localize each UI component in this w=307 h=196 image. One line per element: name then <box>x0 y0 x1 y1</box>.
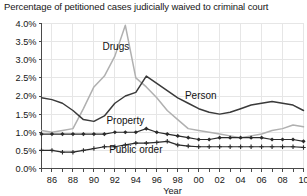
series-marker-plus <box>39 148 43 152</box>
x-axis-tick-label: 06 <box>256 175 266 185</box>
series-marker-plus <box>176 143 180 147</box>
series-marker-plus <box>259 145 263 149</box>
series-line-drugs <box>42 25 304 137</box>
y-axis-tick-label: 0.5% <box>16 146 37 156</box>
series-marker-diamond <box>144 127 148 131</box>
series-marker-diamond <box>218 136 222 140</box>
series-marker-diamond <box>176 134 180 138</box>
series-marker-plus <box>291 145 295 149</box>
series-marker-plus <box>207 145 211 149</box>
x-axis-tick-label: 00 <box>194 175 204 185</box>
series-marker-diamond <box>186 136 190 140</box>
series-marker-plus <box>186 144 190 148</box>
series-marker-diamond <box>270 137 274 141</box>
y-axis-tick-label: 0.0% <box>16 164 37 174</box>
x-axis-tick-label: 86 <box>47 175 57 185</box>
series-marker-plus <box>50 148 54 152</box>
series-marker-plus <box>301 145 305 149</box>
series-marker-diamond <box>239 136 243 140</box>
y-axis-tick-label: 2.0% <box>16 91 37 101</box>
x-axis-tick-label: 10 <box>298 175 307 185</box>
y-axis-tick-label: 1.5% <box>16 110 37 120</box>
x-axis-tick-label: 96 <box>152 175 162 185</box>
series-marker-diamond <box>113 130 117 134</box>
series-label-public-order: Public order <box>109 144 163 155</box>
series-marker-plus <box>81 148 85 152</box>
x-axis-tick-label: 94 <box>131 175 141 185</box>
series-marker-diamond <box>280 137 284 141</box>
y-axis-tick-label: 1.0% <box>16 128 37 138</box>
x-axis-tick-label: 02 <box>215 175 225 185</box>
series-marker-plus <box>249 145 253 149</box>
y-axis-tick-label: 3.5% <box>16 37 37 47</box>
series-marker-diamond <box>197 137 201 141</box>
x-axis-tick-label: 04 <box>236 175 246 185</box>
series-marker-plus <box>217 145 221 149</box>
y-axis-tick-label: 4.0% <box>16 19 37 29</box>
series-line-property <box>42 129 304 142</box>
series-marker-diamond <box>291 137 295 141</box>
series-marker-plus <box>280 145 284 149</box>
y-axis-tick-label: 3.0% <box>16 55 37 65</box>
x-axis-tick-label: 90 <box>89 175 99 185</box>
series-marker-plus <box>228 145 232 149</box>
series-marker-diamond <box>259 136 263 140</box>
x-axis-tick-label: 98 <box>173 175 183 185</box>
series-label-property: Property <box>106 115 144 126</box>
series-marker-diamond <box>134 130 138 134</box>
x-axis-title: Year <box>163 186 182 196</box>
x-axis-tick-label: 88 <box>68 175 78 185</box>
series-marker-plus <box>270 145 274 149</box>
series-marker-plus <box>165 139 169 143</box>
series-marker-diamond <box>123 130 127 134</box>
series-marker-plus <box>238 145 242 149</box>
x-axis-tick-label: 92 <box>110 175 120 185</box>
series-label-drugs: Drugs <box>103 41 130 52</box>
line-chart-plot: 0.0%0.5%1.0%1.5%2.0%2.5%3.0%3.5%4.0%8688… <box>0 0 307 195</box>
series-marker-diamond <box>301 139 305 143</box>
series-marker-diamond <box>155 130 159 134</box>
series-label-person: Person <box>185 90 217 101</box>
y-axis-tick-label: 2.5% <box>16 73 37 83</box>
series-marker-plus <box>102 145 106 149</box>
x-axis-tick-label: 08 <box>277 175 287 185</box>
chart-container: Percentage of petitioned cases judiciall… <box>0 0 307 195</box>
series-marker-plus <box>197 145 201 149</box>
series-marker-diamond <box>207 137 211 141</box>
